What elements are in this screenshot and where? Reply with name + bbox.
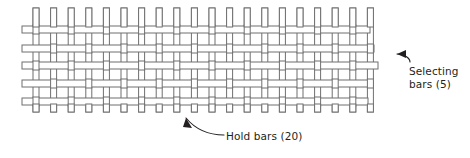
hold-bar-12-over-selecting-bar-4	[227, 79, 233, 88]
hold-bars-front-layer	[33, 8, 373, 112]
hold-bar-1-over-selecting-bar-3	[33, 61, 39, 70]
hold-bar-20-over-selecting-bar-4	[367, 79, 373, 88]
hold-bar-20-bottom-tip	[367, 104, 373, 112]
hold-bar-16-over-selecting-bar-2	[297, 44, 303, 53]
hold-bar-14-over-selecting-bar-4	[262, 79, 268, 88]
hold-bar-18-top-tip	[332, 8, 338, 27]
hold-bar-19-over-selecting-bar-3	[350, 61, 356, 70]
hold-bar-6-top-tip	[121, 8, 127, 27]
hold-bar-7-bottom-tip	[139, 104, 145, 112]
hold-bar-7-top-tip	[139, 8, 145, 27]
hold-bar-1-top-tip	[33, 8, 39, 27]
hold-bar-5-over-selecting-bar-3	[103, 61, 109, 70]
hold-bar-16-top-tip	[297, 8, 303, 27]
hold-bar-10-bottom-tip	[191, 104, 197, 112]
hold-bar-12-top-tip	[227, 8, 233, 27]
hold-bar-10-over-selecting-bar-4	[191, 79, 197, 88]
hold-bars-label: Hold bars (20)	[226, 130, 302, 143]
hold-bar-14-over-selecting-bar-2	[262, 44, 268, 53]
hold-bar-2-over-selecting-bar-4	[51, 79, 57, 88]
hold-bar-6-over-selecting-bar-2	[121, 44, 127, 53]
hold-bar-15-bottom-tip	[279, 104, 285, 112]
selecting-bars-annotation-leader	[397, 50, 410, 62]
hold-bar-3-bottom-tip	[68, 104, 74, 112]
hold-bar-9-bottom-tip	[174, 104, 180, 112]
hold-bar-13-over-selecting-bar-3	[244, 61, 250, 70]
selecting-bars-label-line2: bars (5)	[409, 78, 451, 90]
diagram-canvas: Selectingbars (5) Hold bars (20)	[0, 0, 470, 158]
hold-bar-14-bottom-tip	[262, 104, 268, 112]
selecting-bar-2	[22, 45, 374, 52]
hold-bar-11-bottom-tip	[209, 104, 215, 112]
hold-bar-1-bottom-tip	[33, 104, 39, 112]
hold-bar-9-top-tip	[174, 8, 180, 27]
selecting-bar-3	[22, 62, 378, 69]
hold-bar-3-over-selecting-bar-3	[68, 61, 74, 70]
hold-bar-18-over-selecting-bar-4	[332, 79, 338, 88]
hold-bar-20-over-selecting-bar-2	[367, 44, 373, 53]
hold-bar-8-over-selecting-bar-2	[156, 44, 162, 53]
hold-bar-2-over-selecting-bar-2	[51, 44, 57, 53]
selecting-bars-label-line1: Selecting	[409, 65, 459, 77]
hold-bar-16-bottom-tip	[297, 104, 303, 112]
hold-bar-15-over-selecting-bar-3	[279, 61, 285, 70]
hold-bar-18-over-selecting-bar-2	[332, 44, 338, 53]
hold-bar-2-top-tip	[51, 8, 57, 27]
hold-bar-8-top-tip	[156, 8, 162, 27]
hold-bar-12-over-selecting-bar-2	[227, 44, 233, 53]
selecting-bars-label: Selectingbars (5)	[409, 65, 459, 91]
hold-bar-7-over-selecting-bar-3	[139, 61, 145, 70]
hold-bar-11-over-selecting-bar-3	[209, 61, 215, 70]
hold-bar-6-bottom-tip	[121, 104, 127, 112]
hold-bar-4-over-selecting-bar-4	[86, 79, 92, 88]
hold-bar-19-bottom-tip	[350, 104, 356, 112]
hold-bars-back-layer	[33, 8, 373, 112]
hold-bar-16-over-selecting-bar-4	[297, 79, 303, 88]
hold-bar-19-top-tip	[350, 8, 356, 27]
hold-bar-10-over-selecting-bar-2	[191, 44, 197, 53]
hold-bar-8-bottom-tip	[156, 104, 162, 112]
hold-bar-4-top-tip	[86, 8, 92, 27]
selecting-bars-layer	[22, 26, 378, 105]
hold-bar-18-bottom-tip	[332, 104, 338, 112]
hold-bar-17-over-selecting-bar-3	[315, 61, 321, 70]
hold-bar-17-bottom-tip	[315, 104, 321, 112]
hold-bar-13-bottom-tip	[244, 104, 250, 112]
hold-bars-leader-line	[186, 118, 224, 135]
hold-bar-4-over-selecting-bar-2	[86, 44, 92, 53]
hold-bar-8-over-selecting-bar-4	[156, 79, 162, 88]
selecting-bars-arrow-head	[397, 50, 406, 58]
hold-bar-4-bottom-tip	[86, 104, 92, 112]
hold-bar-11-top-tip	[209, 8, 215, 27]
hold-bar-14-top-tip	[262, 8, 268, 27]
hold-bar-5-top-tip	[103, 8, 109, 27]
hold-bar-12-bottom-tip	[227, 104, 233, 112]
hold-bar-6-over-selecting-bar-4	[121, 79, 127, 88]
hold-bar-9-over-selecting-bar-3	[174, 61, 180, 70]
hold-bars-annotation-leader	[183, 118, 224, 135]
hold-bar-10-top-tip	[191, 8, 197, 27]
hold-bar-20-top-tip	[367, 8, 373, 27]
hold-bar-13-top-tip	[244, 8, 250, 27]
hold-bar-17-top-tip	[315, 8, 321, 27]
hold-bar-2-bottom-tip	[51, 104, 57, 112]
hold-bar-15-top-tip	[279, 8, 285, 27]
hold-bars-label-line1: Hold bars (20)	[226, 130, 302, 142]
hold-bar-5-bottom-tip	[103, 104, 109, 112]
hold-bar-3-top-tip	[68, 8, 74, 27]
